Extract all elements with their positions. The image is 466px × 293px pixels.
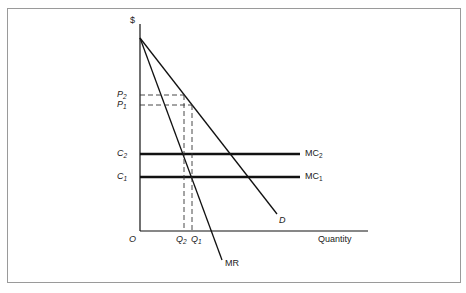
q1-label: Q1 — [191, 235, 202, 246]
mc1-label: MC1 — [305, 172, 323, 183]
mc2-label: MC2 — [305, 149, 323, 160]
origin-label: O — [129, 235, 136, 244]
c1-label: C1 — [117, 172, 127, 183]
p1-label: P1 — [117, 100, 127, 111]
diagram-canvas — [0, 0, 466, 293]
marginal-revenue-curve — [140, 38, 222, 260]
q2-label: Q2 — [176, 235, 187, 246]
mr-label: MR — [225, 259, 239, 268]
c2-label: C2 — [117, 149, 127, 160]
demand-label: D — [279, 216, 286, 225]
y-axis-label: $ — [130, 16, 135, 25]
x-axis-label: Quantity — [318, 235, 352, 244]
demand-curve — [140, 38, 277, 214]
